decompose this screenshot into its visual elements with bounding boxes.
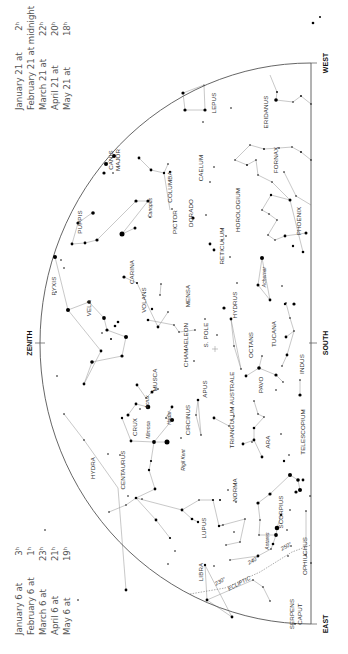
constellation-line (231, 319, 241, 369)
star (286, 354, 289, 357)
star (281, 285, 283, 287)
time-row-date: January 6 at (14, 582, 24, 636)
star (257, 366, 261, 370)
star (234, 159, 236, 161)
direction-east-label: EAST (322, 614, 329, 633)
star (274, 98, 278, 102)
star (286, 529, 288, 531)
constellation-label: SERPENS (288, 599, 295, 629)
star (262, 586, 264, 588)
star (257, 555, 260, 558)
star (71, 243, 74, 246)
constellation-line (276, 96, 311, 104)
star (169, 537, 171, 539)
star (167, 163, 169, 165)
constellation-line (64, 414, 126, 590)
star (155, 519, 158, 522)
star (151, 308, 153, 310)
star (246, 164, 248, 166)
star-name-label: Achernar (261, 267, 267, 289)
star (181, 91, 184, 94)
star (167, 563, 169, 565)
star (125, 589, 128, 592)
star (242, 443, 245, 446)
constellation-line (254, 440, 262, 457)
star (183, 108, 186, 111)
time-row-date: February 21 at midnight (26, 5, 36, 110)
constellation-label: CRUX (131, 418, 138, 436)
constellation-label: APUS (201, 380, 208, 397)
constellation-line (284, 172, 311, 205)
constellation-line (136, 498, 170, 538)
star (292, 245, 294, 247)
ecliptic-label: ECLIPTIC (227, 575, 252, 592)
star (296, 478, 300, 482)
time-row-date: April 6 at (50, 595, 60, 635)
time-row-hour: 23h (38, 547, 48, 561)
star (272, 543, 275, 546)
star (165, 440, 170, 445)
star (125, 504, 127, 506)
star (251, 441, 253, 443)
star (263, 416, 265, 418)
star (252, 579, 254, 581)
star (300, 95, 302, 97)
star (310, 562, 312, 564)
star (233, 345, 235, 347)
star (267, 234, 269, 236)
star (167, 311, 169, 313)
time-row-hour: 21h (50, 547, 60, 561)
star (178, 331, 180, 333)
star (312, 22, 315, 25)
star (150, 169, 153, 172)
star (270, 194, 272, 196)
constellation-label: CIRCINUS (184, 405, 191, 436)
constellation-label: MENSA (184, 284, 191, 307)
star (269, 600, 271, 602)
star (288, 454, 290, 456)
time-row-hour: 2h (14, 22, 24, 31)
star (259, 519, 261, 521)
star-name-label: Canopus (147, 197, 153, 218)
star (291, 146, 293, 148)
star (159, 294, 161, 296)
star (268, 492, 271, 495)
constellation-label: HOROLOGIUM (234, 188, 241, 232)
star (229, 256, 231, 258)
ecliptic-path (190, 545, 311, 594)
star (236, 282, 238, 284)
star (222, 306, 225, 309)
star (258, 534, 260, 536)
ecliptic-line: ECLIPTIC230°240°250° (190, 541, 311, 594)
star (107, 453, 109, 455)
star (127, 495, 129, 497)
star (135, 403, 138, 406)
time-row-hour: 18h (62, 22, 72, 36)
star (249, 144, 251, 146)
star (102, 316, 106, 320)
star (171, 208, 173, 210)
direction-zenith-label: ZENITH (26, 330, 33, 355)
star (77, 599, 79, 601)
star (138, 157, 141, 160)
star (240, 368, 242, 370)
star (120, 354, 123, 357)
constellation-line (139, 158, 168, 173)
star-name-label: Mimosa (145, 421, 151, 439)
star (147, 319, 150, 322)
star (260, 256, 264, 260)
star (292, 302, 295, 305)
constellation-line (270, 75, 277, 100)
star (284, 235, 287, 238)
star (105, 328, 108, 331)
star (289, 509, 291, 511)
star (202, 121, 204, 123)
star (135, 497, 138, 500)
star (245, 375, 248, 378)
constellation-label: PHOENIX (295, 207, 302, 236)
star (163, 172, 165, 174)
times-table-top: January 21 at2hFebruary 21 at midnightMa… (14, 5, 72, 111)
star (198, 499, 200, 501)
star (127, 414, 130, 417)
star (181, 509, 184, 512)
